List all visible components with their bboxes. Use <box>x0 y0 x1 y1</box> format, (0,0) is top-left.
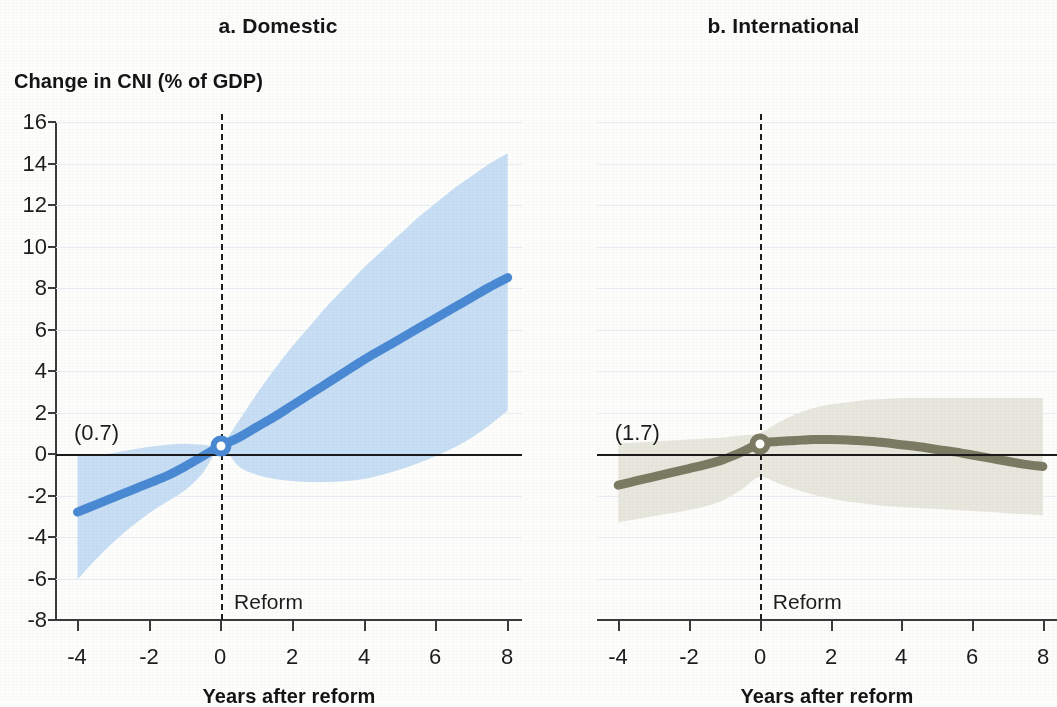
y-tick-mark <box>48 536 56 538</box>
x-tick-mark <box>77 620 79 631</box>
x-tick-label: 2 <box>825 646 837 668</box>
reform-marker-international <box>749 433 770 454</box>
reform-marker-domestic <box>210 435 231 456</box>
x-tick-label: -4 <box>608 646 628 668</box>
x-tick-mark <box>292 620 294 631</box>
x-tick-mark <box>689 620 691 631</box>
panel-a-title: a. Domestic <box>0 14 532 38</box>
international-value-annotation: (1.7) <box>615 422 660 444</box>
y-tick-mark <box>48 329 56 331</box>
x-tick-label: 6 <box>429 646 441 668</box>
y-tick-label: 8 <box>35 277 47 299</box>
x-axis-title: Years after reform <box>597 685 1057 707</box>
plot-area-domestic: 16 14 12 10 8 6 4 2 0 -2 -4 -6 -8 (0.7) … <box>56 122 522 620</box>
x-tick-mark <box>149 620 151 631</box>
x-tick-label: 8 <box>1037 646 1049 668</box>
y-tick-mark <box>48 453 56 455</box>
y-tick-label: 0 <box>35 443 47 465</box>
y-tick-label: 10 <box>23 236 47 258</box>
domestic-value-annotation: (0.7) <box>74 422 119 444</box>
y-tick-label: 2 <box>35 402 47 424</box>
x-tick-label: -4 <box>67 646 87 668</box>
x-tick-mark <box>831 620 833 631</box>
y-tick-mark <box>48 412 56 414</box>
y-tick-label: -4 <box>27 526 47 548</box>
x-tick-mark <box>220 620 222 631</box>
reform-vertical-line <box>760 114 762 620</box>
panel-international: b. International (1.7) Reform <box>532 0 1057 700</box>
y-tick-mark <box>48 121 56 123</box>
x-tick-label: 6 <box>966 646 978 668</box>
reform-label: Reform <box>773 591 842 612</box>
x-tick-mark <box>901 620 903 631</box>
y-tick-label: 6 <box>35 319 47 341</box>
x-tick-label: 0 <box>214 646 226 668</box>
y-tick-mark <box>48 495 56 497</box>
x-tick-label: 4 <box>895 646 907 668</box>
reform-vertical-line <box>221 114 223 620</box>
plot-area-international: (1.7) Reform -4 -2 0 2 4 6 8 Years after… <box>597 122 1057 620</box>
x-tick-label: 2 <box>286 646 298 668</box>
series-svg-international <box>597 122 1057 620</box>
x-tick-mark <box>435 620 437 631</box>
confidence-band-domestic <box>78 153 508 579</box>
x-tick-mark <box>364 620 366 631</box>
y-tick-mark <box>48 619 56 621</box>
y-tick-label: 14 <box>23 153 47 175</box>
y-tick-label: 12 <box>23 194 47 216</box>
y-tick-mark <box>48 204 56 206</box>
y-tick-label: -6 <box>27 568 47 590</box>
zero-reference-line <box>597 454 1057 456</box>
x-tick-mark <box>1043 620 1045 631</box>
panel-domestic: a. Domestic Change in CNI (% of GDP) <box>0 0 532 700</box>
zero-reference-line <box>56 454 522 456</box>
y-tick-mark <box>48 370 56 372</box>
x-tick-mark <box>760 620 762 631</box>
x-tick-mark <box>618 620 620 631</box>
y-tick-label: -8 <box>27 609 47 631</box>
y-tick-mark <box>48 287 56 289</box>
y-tick-label: -2 <box>27 485 47 507</box>
x-tick-mark <box>972 620 974 631</box>
x-tick-label: -2 <box>139 646 159 668</box>
y-tick-mark <box>48 246 56 248</box>
x-axis-title: Years after reform <box>56 685 522 707</box>
y-tick-label: 4 <box>35 360 47 382</box>
reform-label: Reform <box>234 591 303 612</box>
x-tick-label: -2 <box>679 646 699 668</box>
x-tick-label: 4 <box>358 646 370 668</box>
x-tick-label: 0 <box>754 646 766 668</box>
x-tick-label: 8 <box>501 646 513 668</box>
panel-b-title: b. International <box>532 14 1057 38</box>
y-axis-title: Change in CNI (% of GDP) <box>14 70 263 93</box>
y-tick-mark <box>48 578 56 580</box>
series-svg-domestic <box>56 122 522 620</box>
y-tick-mark <box>48 163 56 165</box>
y-tick-label: 16 <box>23 111 47 133</box>
x-tick-mark <box>507 620 509 631</box>
